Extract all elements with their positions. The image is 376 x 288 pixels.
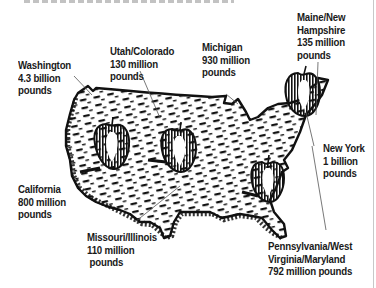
label-washington: Washington 4.3 billion pounds (18, 59, 71, 97)
label-utah-colorado: Utah/Colorado 130 million pounds (110, 45, 174, 83)
apple-icon-northeast (285, 66, 320, 116)
label-new-york: New York 1 billion pounds (323, 142, 365, 180)
label-pennsylvania-wv-maryland: Pennsylvania/West Virginia/Maryland 792 … (268, 240, 352, 278)
label-california: California 800 million pounds (18, 183, 66, 221)
label-michigan: Michigan 930 million pounds (202, 41, 250, 79)
label-maine-new-hampshire: Maine/New Hampshire 135 million pounds (297, 11, 345, 61)
label-missouri-illinois: Missouri/Illinois 110 million pounds (87, 231, 157, 269)
